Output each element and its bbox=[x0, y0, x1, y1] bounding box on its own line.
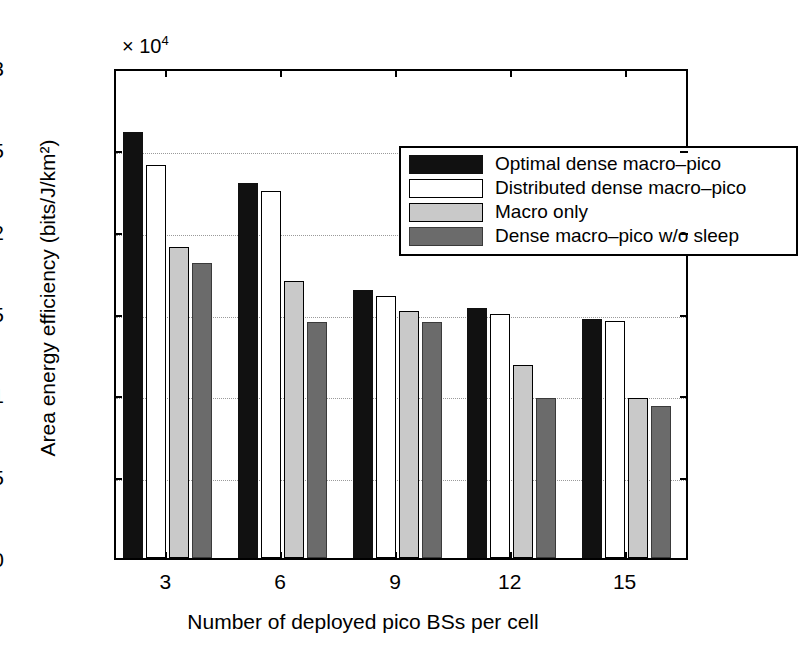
legend-label: Macro only bbox=[495, 202, 588, 222]
bar bbox=[123, 132, 143, 558]
legend-label: Dense macro–pico w/o sleep bbox=[495, 226, 739, 246]
bar bbox=[490, 314, 510, 558]
bar bbox=[192, 263, 212, 558]
y-tick-label: 0 bbox=[0, 549, 4, 570]
bar bbox=[422, 322, 442, 558]
bar bbox=[238, 183, 258, 558]
legend-swatch bbox=[409, 179, 483, 198]
y-tick-label: 2.5 bbox=[0, 140, 4, 161]
y-tick-label: 0.5 bbox=[0, 467, 4, 488]
x-tick-mark-top bbox=[510, 69, 512, 77]
bar bbox=[582, 319, 602, 558]
y-tick-mark-right bbox=[680, 151, 688, 153]
bar bbox=[605, 321, 625, 558]
bar bbox=[513, 365, 533, 558]
x-tick-label: 15 bbox=[595, 570, 655, 594]
y-tick-mark-right bbox=[680, 315, 688, 317]
legend-swatch bbox=[409, 203, 483, 222]
bar bbox=[399, 311, 419, 558]
x-axis-title: Number of deployed pico BSs per cell bbox=[0, 610, 726, 634]
legend-item: Optimal dense macro–pico bbox=[409, 152, 790, 176]
x-tick-label: 3 bbox=[135, 570, 195, 594]
y-tick-mark bbox=[114, 478, 122, 480]
bar bbox=[628, 398, 648, 558]
y-axis-exponent-base: × 10 bbox=[122, 35, 161, 57]
bar bbox=[536, 398, 556, 558]
bar bbox=[353, 290, 373, 558]
y-tick-label: 1.5 bbox=[0, 304, 4, 325]
x-tick-mark bbox=[280, 552, 282, 560]
bar bbox=[467, 308, 487, 558]
y-tick-label: 1 bbox=[0, 385, 4, 406]
y-axis-exponent-power: 4 bbox=[161, 33, 168, 48]
y-tick-mark-right bbox=[680, 478, 688, 480]
legend-item: Dense macro–pico w/o sleep bbox=[409, 224, 790, 248]
bar bbox=[284, 281, 304, 558]
x-tick-mark bbox=[510, 552, 512, 560]
legend-swatch bbox=[409, 227, 483, 246]
y-tick-mark bbox=[114, 151, 122, 153]
x-tick-mark bbox=[625, 552, 627, 560]
y-axis-exponent: × 104 bbox=[122, 33, 169, 58]
y-tick-label: 2 bbox=[0, 222, 4, 243]
y-tick-mark-right bbox=[680, 233, 688, 235]
y-tick-mark bbox=[114, 315, 122, 317]
legend-label: Optimal dense macro–pico bbox=[495, 154, 721, 174]
bar bbox=[376, 296, 396, 558]
legend-label: Distributed dense macro–pico bbox=[495, 178, 746, 198]
y-tick-mark-right bbox=[680, 396, 688, 398]
x-tick-label: 12 bbox=[480, 570, 540, 594]
legend-item: Macro only bbox=[409, 200, 790, 224]
bar bbox=[651, 406, 671, 558]
legend-swatch bbox=[409, 155, 483, 174]
bar bbox=[307, 322, 327, 558]
legend: Optimal dense macro–picoDistributed dens… bbox=[399, 146, 798, 256]
bar bbox=[146, 165, 166, 558]
x-tick-mark bbox=[165, 552, 167, 560]
plot-area: Optimal dense macro–picoDistributed dens… bbox=[114, 69, 688, 560]
y-tick-label: 3 bbox=[0, 58, 4, 79]
x-tick-mark-top bbox=[280, 69, 282, 77]
y-tick-mark bbox=[114, 233, 122, 235]
x-tick-mark bbox=[395, 552, 397, 560]
y-tick-mark bbox=[114, 396, 122, 398]
x-tick-label: 9 bbox=[365, 570, 425, 594]
bar bbox=[261, 191, 281, 558]
y-axis-title: Area energy efficiency (bits/J/km²) bbox=[36, 88, 60, 508]
legend-item: Distributed dense macro–pico bbox=[409, 176, 790, 200]
x-tick-mark-top bbox=[165, 69, 167, 77]
x-tick-label: 6 bbox=[250, 570, 310, 594]
x-tick-mark-top bbox=[395, 69, 397, 77]
bar bbox=[169, 247, 189, 558]
x-tick-mark-top bbox=[625, 69, 627, 77]
